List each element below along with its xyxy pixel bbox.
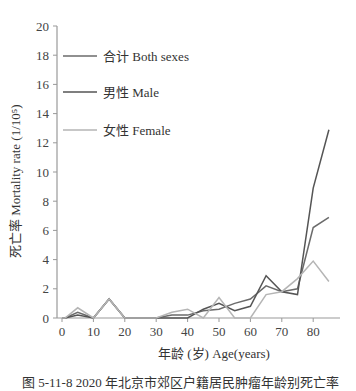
y-tick-label: 20 (36, 19, 49, 34)
y-tick-label: 0 (43, 311, 50, 326)
legend-label: 女性 Female (103, 123, 171, 138)
series-lines (62, 130, 329, 318)
y-axis: 02468101214161820 (36, 19, 57, 326)
series-line-0 (62, 217, 329, 318)
x-tick-label: 10 (87, 324, 100, 339)
y-axis-title: 死亡率 Mortality rate (1/10⁵) (8, 104, 23, 258)
y-tick-label: 4 (43, 252, 50, 267)
y-tick-label: 12 (36, 135, 49, 150)
x-axis-title: 年龄 (岁) Age(years) (158, 346, 270, 361)
y-tick-label: 6 (43, 223, 50, 238)
y-tick-label: 2 (43, 281, 50, 296)
y-tick-label: 8 (43, 194, 50, 209)
y-tick-label: 18 (36, 48, 49, 63)
x-tick-label: 30 (150, 324, 163, 339)
series-line-2 (62, 261, 329, 318)
legend-label: 男性 Male (103, 85, 159, 100)
x-tick-label: 20 (118, 324, 131, 339)
x-tick-label: 80 (307, 324, 320, 339)
x-tick-label: 70 (275, 324, 288, 339)
x-tick-label: 40 (181, 324, 194, 339)
legend-label: 合计 Both sexes (103, 49, 189, 64)
x-axis: 01020304050607080 (57, 318, 340, 339)
y-tick-label: 16 (36, 77, 50, 92)
x-tick-label: 50 (213, 324, 226, 339)
y-tick-label: 10 (36, 165, 49, 180)
y-tick-label: 14 (36, 106, 50, 121)
legend: 合计 Both sexes男性 Male女性 Female (63, 49, 189, 138)
x-tick-label: 0 (59, 324, 66, 339)
figure-caption: 图 5-11-8 2020 年北京市郊区户籍居民肿瘤年龄别死亡率 (22, 372, 339, 391)
x-tick-label: 60 (244, 324, 257, 339)
